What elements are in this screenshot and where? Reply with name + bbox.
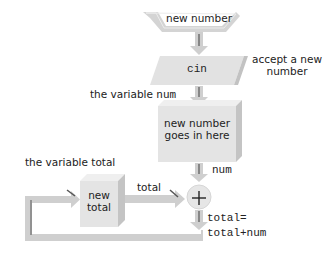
num-box-text: new number goes in here bbox=[158, 117, 236, 141]
num-variable-name: num bbox=[156, 89, 176, 101]
total-box-line1: new bbox=[80, 189, 118, 201]
input-annotation-line1: accept a new bbox=[246, 53, 328, 65]
num-variable-label: the variable num bbox=[90, 88, 176, 102]
assignment-line2: total+num bbox=[207, 226, 266, 241]
num-box-line2: goes in here bbox=[158, 129, 236, 141]
arrow-to-cin bbox=[190, 32, 208, 55]
adder-circle bbox=[187, 185, 211, 209]
assignment-line1: total= bbox=[207, 211, 266, 226]
input-annotation-line2: number bbox=[246, 65, 328, 77]
assignment-text: total= total+num bbox=[207, 211, 266, 241]
input-label: new number bbox=[160, 12, 238, 24]
input-annotation: accept a new number bbox=[246, 53, 328, 77]
total-flow-label: total bbox=[137, 181, 161, 193]
total-box-text: new total bbox=[80, 189, 118, 213]
cin-label: cin bbox=[154, 63, 240, 76]
arrow-adder-down bbox=[190, 210, 208, 230]
num-variable-prefix: the variable bbox=[90, 88, 153, 100]
total-box-line2: total bbox=[80, 201, 118, 213]
arrow-num-to-adder bbox=[190, 163, 208, 182]
total-variable-label: the variable total bbox=[25, 156, 115, 168]
num-box-line1: new number bbox=[158, 117, 236, 129]
num-flow-label: num bbox=[212, 164, 232, 177]
